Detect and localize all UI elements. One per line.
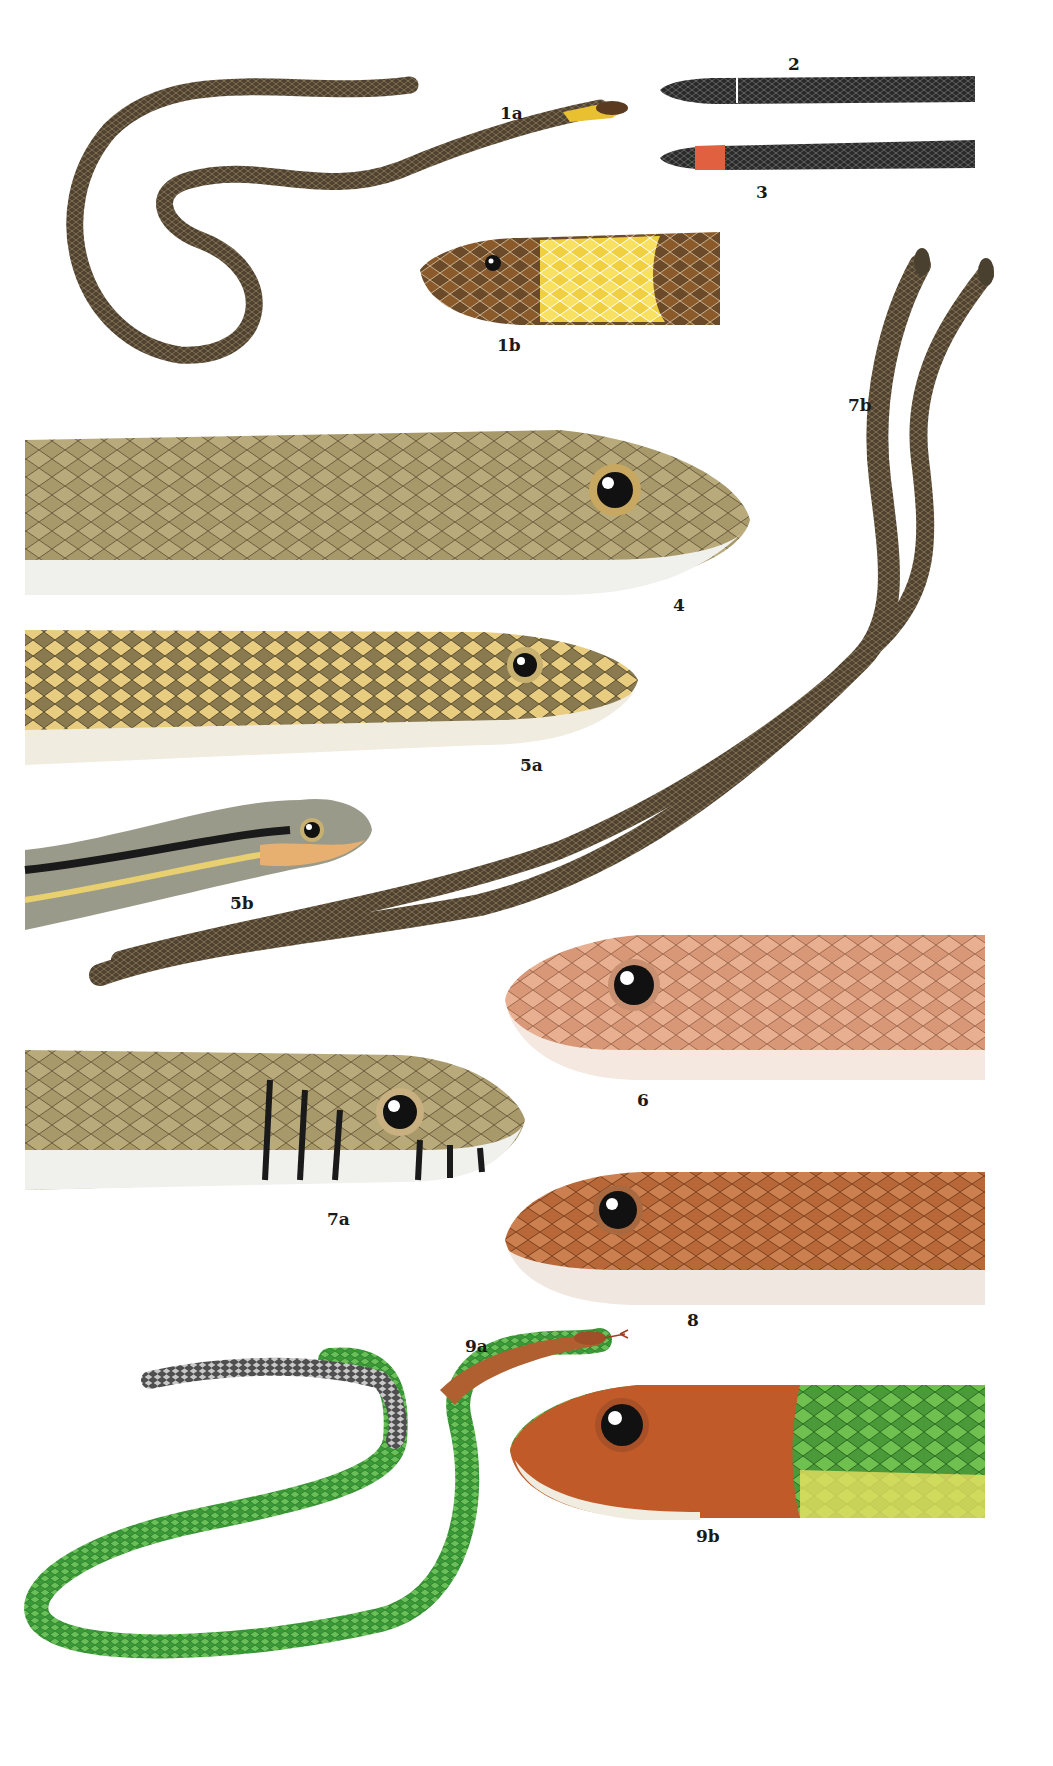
label-8: 8 bbox=[687, 1310, 699, 1330]
figure-6-head bbox=[505, 935, 985, 1080]
figure-8-head bbox=[505, 1172, 985, 1305]
label-3: 3 bbox=[756, 182, 768, 202]
label-9a: 9a bbox=[465, 1336, 488, 1356]
figure-9b-head bbox=[510, 1385, 985, 1520]
figure-3-snake bbox=[660, 140, 975, 170]
label-6: 6 bbox=[637, 1090, 649, 1110]
label-7b: 7b bbox=[848, 395, 872, 415]
figure-2-snake bbox=[660, 76, 975, 104]
figure-4-head bbox=[25, 430, 750, 595]
label-5a: 5a bbox=[520, 755, 543, 775]
illustration-plate: 1a 1b 2 3 4 5a 5b 6 7a 7b 8 9a 9b bbox=[0, 0, 1053, 1766]
label-9b: 9b bbox=[696, 1526, 720, 1546]
figure-5a-head bbox=[25, 630, 638, 765]
snake-illustrations bbox=[0, 0, 1053, 1766]
label-7a: 7a bbox=[327, 1209, 350, 1229]
figure-1b-head bbox=[420, 232, 720, 325]
label-1a: 1a bbox=[500, 103, 523, 123]
label-2: 2 bbox=[788, 54, 800, 74]
label-5b: 5b bbox=[230, 893, 254, 913]
label-4: 4 bbox=[673, 595, 685, 615]
figure-7a-head bbox=[25, 1050, 525, 1190]
label-1b: 1b bbox=[497, 335, 521, 355]
